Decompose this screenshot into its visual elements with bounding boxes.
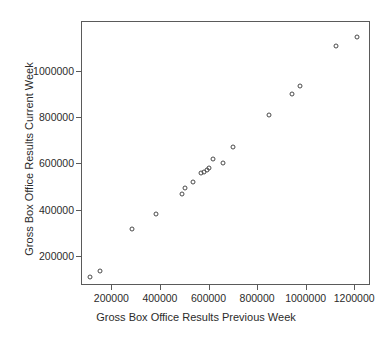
data-point xyxy=(297,83,302,88)
x-tick-label: 200000 xyxy=(94,292,129,304)
y-axis-label: Gross Box Office Results Current Week xyxy=(23,44,35,274)
y-tick-label: 1000000 xyxy=(33,65,74,77)
x-tick-label: 800000 xyxy=(240,292,275,304)
x-axis-label: Gross Box Office Results Previous Week xyxy=(0,311,392,323)
data-point xyxy=(180,191,185,196)
plot-area xyxy=(81,21,370,285)
data-point xyxy=(98,269,103,274)
data-point xyxy=(220,161,225,166)
y-tick-label: 600000 xyxy=(39,157,74,169)
x-tick-label: 400000 xyxy=(142,292,177,304)
data-point xyxy=(153,211,158,216)
data-point xyxy=(210,157,215,162)
x-tick xyxy=(257,285,258,290)
data-point xyxy=(230,144,235,149)
x-tick-label: 600000 xyxy=(191,292,226,304)
scatter-chart: 20000040000060000080000010000001200000 2… xyxy=(0,0,392,345)
x-tick xyxy=(354,285,355,290)
x-tick xyxy=(160,285,161,290)
x-tick-label: 1200000 xyxy=(334,292,375,304)
data-point xyxy=(266,112,271,117)
y-tick-label: 400000 xyxy=(39,204,74,216)
y-tick-label: 800000 xyxy=(39,111,74,123)
data-point xyxy=(87,274,92,279)
y-tick xyxy=(76,117,81,118)
x-tick xyxy=(111,285,112,290)
data-point xyxy=(334,44,339,49)
data-point xyxy=(207,166,212,171)
y-tick xyxy=(76,256,81,257)
data-point xyxy=(289,92,294,97)
y-tick xyxy=(76,71,81,72)
y-tick xyxy=(76,210,81,211)
data-point xyxy=(130,226,135,231)
x-tick xyxy=(209,285,210,290)
x-tick-label: 1000000 xyxy=(285,292,326,304)
data-point xyxy=(190,179,195,184)
x-tick xyxy=(306,285,307,290)
y-tick xyxy=(76,163,81,164)
data-point xyxy=(183,185,188,190)
y-tick-label: 200000 xyxy=(39,250,74,262)
data-point xyxy=(355,34,360,39)
